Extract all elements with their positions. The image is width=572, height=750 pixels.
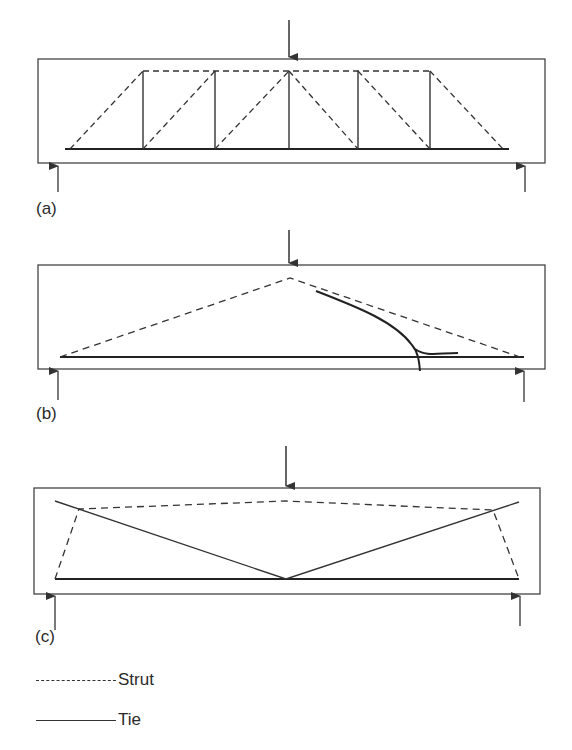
dashed-line-icon bbox=[36, 680, 116, 681]
beam-outline-b bbox=[38, 265, 545, 369]
legend-strut-label: Strut bbox=[118, 670, 154, 690]
solid-line-icon bbox=[36, 720, 116, 721]
strut-polygon bbox=[55, 501, 519, 579]
inclined-ties bbox=[55, 501, 519, 579]
legend-strut: Strut bbox=[36, 670, 154, 690]
panel-c bbox=[34, 446, 540, 630]
diagonal-struts bbox=[70, 71, 503, 149]
legend-tie: Tie bbox=[36, 710, 141, 730]
panel-label-a: (a) bbox=[36, 199, 57, 219]
panel-label-b: (b) bbox=[36, 404, 57, 424]
crack-branch bbox=[415, 349, 458, 354]
strut-and-tie-diagram bbox=[0, 0, 572, 750]
crack-line bbox=[316, 291, 420, 371]
panel-label-c: (c) bbox=[35, 627, 55, 647]
panel-b bbox=[38, 230, 545, 402]
panel-a bbox=[38, 20, 545, 192]
arch-struts bbox=[60, 278, 520, 357]
legend-tie-label: Tie bbox=[118, 710, 141, 730]
vertical-ties bbox=[143, 71, 430, 149]
